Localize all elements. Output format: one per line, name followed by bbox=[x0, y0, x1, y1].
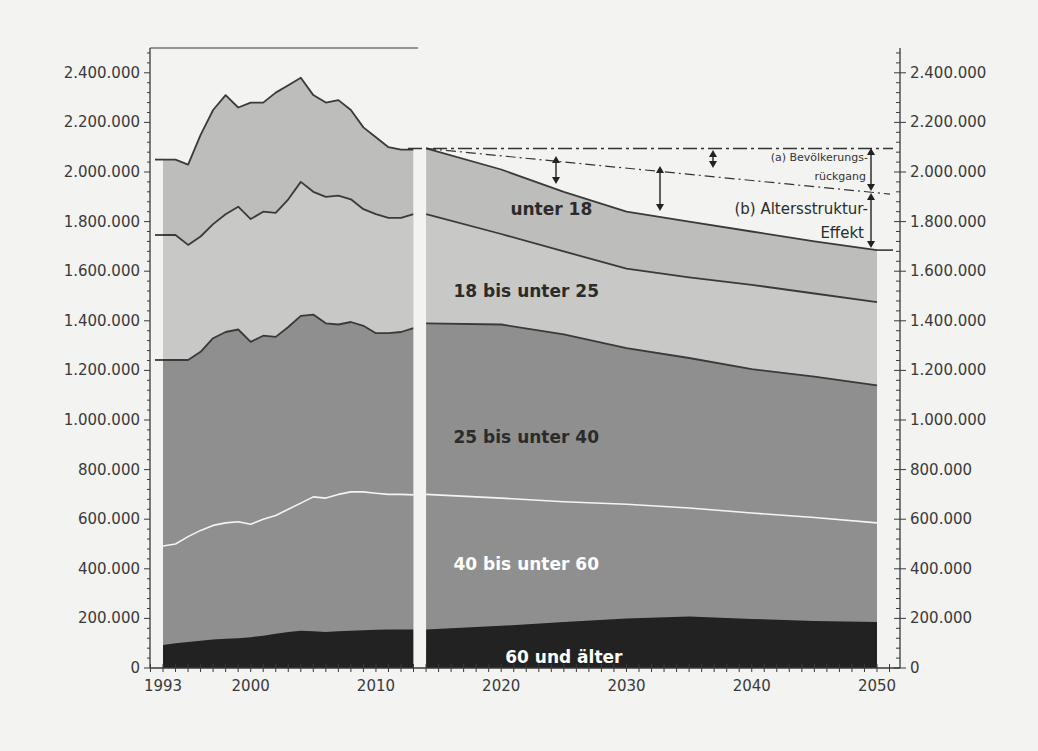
chart-container: 00200.000200.000400.000400.000600.000600… bbox=[0, 0, 1038, 751]
stacked-area-chart: 00200.000200.000400.000400.000600.000600… bbox=[0, 0, 1038, 751]
y-tick-label-left: 800.000 bbox=[78, 461, 140, 479]
annotation-a-line1: (a) Bevölkerungs- bbox=[771, 151, 868, 164]
annotations: (a) Bevölkerungs- rückgang (b) Altersstr… bbox=[734, 151, 868, 242]
arrow-icon-2033 bbox=[656, 166, 664, 211]
arrow-icon-2037 bbox=[709, 150, 717, 168]
x-tick-label: 2020 bbox=[482, 677, 520, 695]
forecast-gap bbox=[414, 148, 427, 668]
y-tick-label-right: 2.400.000 bbox=[910, 64, 986, 82]
band-label: 60 und älter bbox=[505, 647, 623, 667]
y-tick-label-right: 1.800.000 bbox=[910, 213, 986, 231]
y-tick-label-right: 1.200.000 bbox=[910, 361, 986, 379]
band-label: 18 bis unter 25 bbox=[454, 281, 599, 301]
y-tick-label-right: 1.600.000 bbox=[910, 262, 986, 280]
y-tick-label-right: 1.000.000 bbox=[910, 411, 986, 429]
y-tick-label-left: 1.800.000 bbox=[64, 213, 140, 231]
y-tick-label-left: 2.400.000 bbox=[64, 64, 140, 82]
annotation-b-line1: (b) Altersstruktur- bbox=[734, 200, 868, 218]
band-label: 40 bis unter 60 bbox=[454, 554, 600, 574]
y-tick-label-right: 600.000 bbox=[910, 510, 972, 528]
y-tick-label-left: 2.200.000 bbox=[64, 113, 140, 131]
y-tick-label-left: 600.000 bbox=[78, 510, 140, 528]
annotation-b-line2: Effekt bbox=[820, 224, 864, 242]
x-tick-label: 2000 bbox=[232, 677, 270, 695]
y-tick-label-left: 1.600.000 bbox=[64, 262, 140, 280]
annotation-a-line2: rückgang bbox=[814, 170, 866, 183]
x-tick-label: 2040 bbox=[733, 677, 771, 695]
y-tick-label-left: 200.000 bbox=[78, 609, 140, 627]
y-tick-label-left: 1.200.000 bbox=[64, 361, 140, 379]
y-tick-label-left: 2.000.000 bbox=[64, 163, 140, 181]
arrow-icon-structure-b bbox=[867, 193, 875, 248]
x-tick-label: 2030 bbox=[607, 677, 645, 695]
y-tick-label-right: 400.000 bbox=[910, 560, 972, 578]
area-layers bbox=[163, 78, 877, 668]
arrow-icon-decline-a bbox=[867, 148, 875, 191]
y-tick-label-right: 1.400.000 bbox=[910, 312, 986, 330]
y-tick-label-right: 200.000 bbox=[910, 609, 972, 627]
y-tick-label-left: 400.000 bbox=[78, 560, 140, 578]
band-label: unter 18 bbox=[510, 199, 592, 219]
y-tick-label-left: 0 bbox=[130, 659, 140, 677]
y-tick-label-right: 2.000.000 bbox=[910, 163, 986, 181]
x-tick-label: 1993 bbox=[144, 677, 182, 695]
y-tick-label-left: 1.000.000 bbox=[64, 411, 140, 429]
arrow-icon-2024 bbox=[552, 156, 560, 184]
band-label: 25 bis unter 40 bbox=[454, 427, 600, 447]
x-tick-label: 2050 bbox=[858, 677, 896, 695]
x-tick-label: 2010 bbox=[357, 677, 395, 695]
gap-bar bbox=[414, 148, 427, 668]
y-tick-label-right: 800.000 bbox=[910, 461, 972, 479]
y-tick-label-left: 1.400.000 bbox=[64, 312, 140, 330]
y-tick-label-right: 0 bbox=[910, 659, 920, 677]
y-tick-label-right: 2.200.000 bbox=[910, 113, 986, 131]
